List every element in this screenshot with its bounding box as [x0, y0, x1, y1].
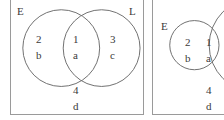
region-intersection-number: 1: [206, 37, 212, 48]
set-label-e: E: [17, 6, 24, 17]
region-left-only-number: 2: [185, 37, 191, 48]
venn-panel-left: E L 2 b 1 a 3 c 4 d: [10, 0, 144, 115]
circle-set-e: [23, 10, 100, 87]
region-right-only-number: 3: [110, 34, 116, 45]
region-intersection-letter: a: [206, 53, 211, 64]
venn-diagram-figure: E L 2 b 1 a 3 c 4 d E 2 b 1 a 4 d: [0, 0, 224, 120]
circle-set-e: [170, 21, 219, 70]
set-label-l: L: [129, 6, 136, 17]
region-left-only-number: 2: [36, 34, 42, 45]
region-outside-number: 4: [73, 85, 79, 96]
region-outside-letter: d: [73, 101, 79, 112]
region-outside-letter: d: [206, 101, 212, 112]
region-intersection-letter: a: [73, 50, 78, 61]
region-left-only-letter: b: [185, 53, 191, 64]
region-left-only-letter: b: [36, 50, 42, 61]
set-label-e: E: [161, 21, 168, 32]
region-intersection-number: 1: [73, 34, 79, 45]
region-right-only-letter: c: [110, 50, 115, 61]
venn-panel-right: E 2 b 1 a 4 d: [152, 0, 224, 115]
region-outside-number: 4: [206, 85, 212, 96]
